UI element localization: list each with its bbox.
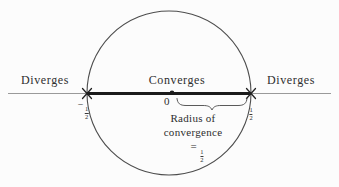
- minus-sign: −: [78, 99, 84, 110]
- label-left-endpoint: −12: [78, 98, 89, 121]
- fraction-numerator: 1: [249, 107, 252, 114]
- fraction-denominator: 2: [249, 114, 252, 122]
- radius-value: =12: [190, 140, 203, 164]
- label-converges: Converges: [149, 74, 206, 87]
- equals-sign: =: [190, 140, 197, 152]
- label-diverges-left: Diverges: [21, 74, 69, 87]
- radius-caption-line2: convergence: [164, 126, 223, 139]
- fraction-denominator: 2: [85, 113, 88, 121]
- origin-dot: [170, 91, 175, 96]
- label-diverges-right: Diverges: [267, 74, 315, 87]
- fraction-one-half: 12: [200, 149, 203, 164]
- radius-caption-line1: Radius of: [170, 112, 215, 125]
- diagram-canvas: [0, 0, 339, 187]
- fraction-numerator: 1: [85, 106, 88, 113]
- fraction-one-half: 12: [85, 106, 88, 121]
- fraction-numerator: 1: [200, 149, 203, 156]
- label-origin: 0: [164, 95, 170, 108]
- fraction-one-half: 12: [249, 107, 252, 122]
- radius-of-convergence-figure: Diverges Converges Diverges 0 −12 12 Rad…: [0, 0, 339, 187]
- label-right-endpoint: 12: [249, 100, 252, 122]
- radius-underbrace: [177, 99, 247, 111]
- fraction-denominator: 2: [200, 156, 203, 164]
